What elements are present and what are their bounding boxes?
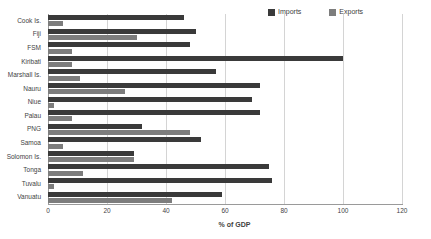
- category-label: Nauru: [23, 85, 41, 93]
- bar-imports[interactable]: [48, 97, 252, 102]
- bar-exports[interactable]: [48, 144, 63, 149]
- bar-exports[interactable]: [48, 157, 134, 162]
- bar-imports[interactable]: [48, 178, 272, 183]
- bar-group: [48, 177, 402, 191]
- bar-exports[interactable]: [48, 130, 190, 135]
- bar-group: [48, 150, 402, 164]
- bar-exports[interactable]: [48, 116, 72, 121]
- bar-exports[interactable]: [48, 103, 54, 108]
- bar-imports[interactable]: [48, 42, 190, 47]
- x-axis-title: % of GDP: [0, 220, 431, 229]
- bar-imports[interactable]: [48, 56, 343, 61]
- x-tick-label: 0: [46, 206, 50, 215]
- bar-series-group: [48, 14, 402, 204]
- bar-imports[interactable]: [48, 151, 134, 156]
- x-tick-label: 120: [397, 206, 408, 215]
- x-tick-label: 40: [162, 206, 169, 215]
- category-label: Fiji: [33, 30, 41, 38]
- bar-group: [48, 68, 402, 82]
- x-tick-label: 20: [103, 206, 110, 215]
- bar-group: [48, 123, 402, 137]
- bar-exports[interactable]: [48, 171, 83, 176]
- bar-exports[interactable]: [48, 76, 80, 81]
- bar-imports[interactable]: [48, 69, 216, 74]
- x-tick-label: 80: [280, 206, 287, 215]
- bar-group: [48, 109, 402, 123]
- category-label: Samoa: [20, 139, 41, 147]
- category-label: Kiribati: [21, 58, 41, 66]
- category-axis-labels: Cook Is.FijiFSMKiribatiMarshall Is.Nauru…: [0, 14, 45, 204]
- bar-group: [48, 163, 402, 177]
- bar-imports[interactable]: [48, 192, 222, 197]
- bar-group: [48, 28, 402, 42]
- bar-exports[interactable]: [48, 62, 72, 67]
- gridline: [402, 14, 403, 204]
- x-axis-line: [48, 204, 403, 205]
- bar-imports[interactable]: [48, 164, 269, 169]
- bar-exports[interactable]: [48, 198, 172, 203]
- plot-area: [48, 14, 402, 204]
- bar-group: [48, 136, 402, 150]
- bar-imports[interactable]: [48, 110, 260, 115]
- bar-group: [48, 14, 402, 28]
- bar-imports[interactable]: [48, 29, 196, 34]
- x-tick-label: 60: [221, 206, 228, 215]
- bar-chart: ImportsExports Cook Is.FijiFSMKiribatiMa…: [0, 0, 431, 239]
- bar-imports[interactable]: [48, 137, 201, 142]
- x-tick-label: 100: [338, 206, 349, 215]
- bar-group: [48, 190, 402, 204]
- bar-imports[interactable]: [48, 15, 184, 20]
- bar-group: [48, 55, 402, 69]
- bar-exports[interactable]: [48, 21, 63, 26]
- bar-imports[interactable]: [48, 83, 260, 88]
- category-label: Tuvalu: [22, 180, 41, 188]
- bar-group: [48, 41, 402, 55]
- x-axis-tick-labels: 020406080100120: [48, 206, 402, 218]
- bar-exports[interactable]: [48, 35, 137, 40]
- category-label: Vanuatu: [17, 193, 41, 201]
- bar-group: [48, 95, 402, 109]
- bar-exports[interactable]: [48, 184, 54, 189]
- bar-exports[interactable]: [48, 49, 72, 54]
- category-label: PNG: [27, 125, 41, 133]
- bar-group: [48, 82, 402, 96]
- bar-exports[interactable]: [48, 89, 125, 94]
- category-label: Cook Is.: [17, 17, 41, 25]
- category-label: Tonga: [23, 166, 41, 174]
- category-label: Marshall Is.: [8, 71, 41, 79]
- category-label: Palau: [24, 112, 41, 120]
- bar-imports[interactable]: [48, 124, 142, 129]
- category-label: Niue: [28, 98, 41, 106]
- category-label: FSM: [27, 44, 41, 52]
- category-label: Solomon Is.: [7, 153, 41, 161]
